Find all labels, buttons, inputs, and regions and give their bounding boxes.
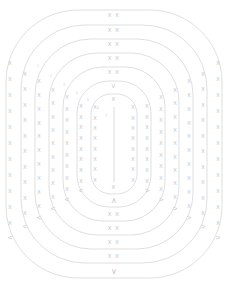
ring-2-left-tick: X [23,164,27,170]
ring-2-bottom-glyph: X X [108,253,120,259]
ring-number-label-3: 3 [63,83,65,87]
ring-1-right-tick: X [216,76,220,82]
ring-number-label-7: 7 [105,114,107,118]
ring-3-right-tick: X [187,189,191,195]
ring-1-left-tick: X [8,156,12,162]
ring-7-right-tick: X [131,104,135,110]
ring-1-left-tick: X [8,204,12,210]
ring-3-left-tick: X [37,78,41,84]
ring-3-left-tick: X [37,175,41,181]
ring-4-right-tick: X [173,100,177,106]
ring-number-label-5: 5 [87,98,89,102]
ring-3-left-tick: X [37,92,41,98]
ring-6-left-tick: X [79,167,83,173]
ring-1-right-tick: X [216,92,220,98]
ring-5-right-tick: X [159,106,163,112]
ring-6-right-tick: X [145,167,149,173]
ring-7-top-glyph: X [112,96,117,102]
ring-1-right-tick: X [216,188,220,194]
ring-7-left-tick: X [93,166,97,172]
ring-1-right-tick: X [216,220,220,226]
ring-4-left-tick: X [51,167,55,173]
ring-6-right-tick: X [145,124,149,130]
ring-3-bottom-glyph: X X [108,239,120,245]
ring-5-left-tick: X [65,175,69,181]
ring-4-right-tick: X [173,194,177,200]
ring-2-right-chevron: > [201,222,206,231]
ring-6-right-tick: X [145,178,149,184]
ring-5-left-chevron: < [65,195,70,204]
ring-1-left-tick: X [8,60,12,66]
ring-2-left-tick: X [23,117,27,123]
ring-5-right-tick: X [159,129,163,135]
ring-1-right-tick: X [216,124,220,130]
ring-7-bottom-glyph: X [112,184,117,190]
ring-3-right-tick: X [187,161,191,167]
ring-5-left-tick: X [65,117,69,123]
ring-1-left-tick: X [8,92,12,98]
ring-3-right-tick: X [187,203,191,209]
ring-5-bottom-glyph: X X [108,211,120,217]
ring-4-right-tick: X [173,114,177,120]
ring-2-left-tick: X [23,133,27,139]
ring-4-right-tick: X [173,127,177,133]
ring-2-left-tick: X [23,210,27,216]
ring-3-left-tick: X [37,203,41,209]
concentric-rings-plot: X X∨XXXXXXXXXXXXXXXXXXXXXX<>X XX XXXXXXX… [0,0,228,287]
ring-5-right-tick: X [159,152,163,158]
ring-1-left-tick: X [8,140,12,146]
ring-6-left-tick: X [79,178,83,184]
ring-4-right-tick: X [173,167,177,173]
ring-3-right-tick: X [187,78,191,84]
ring-6-right-tick: X [145,146,149,152]
ring-3-left-tick: X [37,120,41,126]
ring-7-left-tick: X [93,115,97,121]
ring-5-left-tick: X [65,152,69,158]
ring-1-left-tick: X [8,76,12,82]
ring-4-bottom-glyph: X X [108,225,120,231]
ring-1-left-tick: X [8,188,12,194]
ring-7-right-tick: X [131,115,135,121]
ring-2-right-tick: X [201,179,205,185]
ring-5-top-glyph: X X [108,69,120,75]
ring-7-left-tick: X [93,146,97,152]
ring-7-left-tick: X [93,156,97,162]
ring-6-right-tick: X [145,114,149,120]
ring-3-left-tick: X [37,133,41,139]
ring-2-right-tick: X [201,86,205,92]
ring-7-right-tick: X [131,177,135,183]
ring-7-right-tick: X [131,135,135,141]
ring-4-left-tick: X [51,140,55,146]
ring-7-right-tick: X [131,125,135,131]
ring-1-right-tick: X [216,156,220,162]
ring-4-right-tick: X [173,87,177,93]
ring-4-left-tick: X [51,194,55,200]
ring-2-right-tick: X [201,102,205,108]
ring-3-left-tick: X [37,189,41,195]
ring-3-top-glyph: X X [108,41,120,47]
ring-4-left-tick: X [51,154,55,160]
ring-4-top-glyph: X X [108,55,120,61]
figure-canvas: X X∨XXXXXXXXXXXXXXXXXXXXXX<>X XX XXXXXXX… [0,0,228,287]
ring-1-right-tick: X [216,140,220,146]
ring-3-right-chevron: > [187,213,192,222]
ring-6-right-tick: X [145,103,149,109]
ring-5-left-tick: X [65,186,69,192]
ring-5-right-tick: X [159,117,163,123]
ring-number-label-6: 6 [97,106,99,110]
ring-5-right-tick: X [159,163,163,169]
ring-6-left-tick: X [79,146,83,152]
ring-7-right-tick: X [131,166,135,172]
ring-1-left-tick: X [8,124,12,130]
ring-1-left-chevron: < [8,233,13,242]
ring-2-top-glyph: X X [108,27,120,33]
ring-1-right-tick: X [216,204,220,210]
ring-2-left-tick: X [23,102,27,108]
ring-2-left-tick: X [23,86,27,92]
ring-5-left-tick: X [65,140,69,146]
ring-5-right-tick: X [159,140,163,146]
ring-number-label-2: 2 [50,74,52,78]
ring-2-right-tick: X [201,148,205,154]
ring-2-right-tick: X [201,71,205,77]
ring-5-right-tick: X [159,94,163,100]
